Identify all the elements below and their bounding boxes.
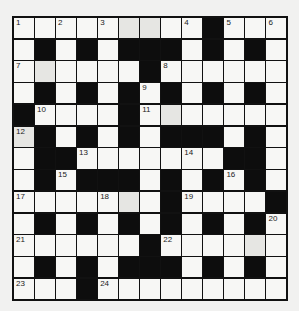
grid-cell[interactable]	[77, 61, 97, 81]
grid-cell[interactable]: 17	[14, 192, 34, 212]
grid-cell[interactable]	[266, 148, 286, 168]
grid-cell[interactable]	[245, 18, 265, 38]
grid-cell[interactable]	[14, 148, 34, 168]
grid-cell[interactable]: 3	[98, 18, 118, 38]
grid-cell[interactable]	[56, 235, 76, 255]
grid-cell[interactable]	[203, 235, 223, 255]
grid-cell[interactable]	[266, 83, 286, 103]
grid-cell[interactable]	[203, 192, 223, 212]
grid-cell[interactable]	[119, 192, 139, 212]
grid-cell[interactable]	[266, 279, 286, 299]
grid-cell[interactable]	[182, 214, 202, 234]
grid-cell[interactable]: 14	[182, 148, 202, 168]
grid-cell[interactable]	[245, 192, 265, 212]
grid-cell[interactable]	[56, 279, 76, 299]
grid-cell[interactable]	[140, 192, 160, 212]
grid-cell[interactable]: 12	[14, 127, 34, 147]
grid-cell[interactable]: 13	[77, 148, 97, 168]
grid-cell[interactable]	[35, 18, 55, 38]
grid-cell[interactable]	[14, 170, 34, 190]
grid-cell[interactable]	[203, 61, 223, 81]
grid-cell[interactable]	[14, 257, 34, 277]
grid-cell[interactable]	[266, 127, 286, 147]
grid-cell[interactable]	[35, 279, 55, 299]
grid-cell[interactable]	[98, 257, 118, 277]
grid-cell[interactable]: 21	[14, 235, 34, 255]
grid-cell[interactable]	[266, 257, 286, 277]
grid-cell[interactable]	[77, 235, 97, 255]
grid-cell[interactable]	[224, 105, 244, 125]
grid-cell[interactable]	[119, 148, 139, 168]
grid-cell[interactable]	[14, 40, 34, 60]
grid-cell[interactable]	[140, 214, 160, 234]
grid-cell[interactable]	[35, 235, 55, 255]
grid-cell[interactable]	[224, 214, 244, 234]
grid-cell[interactable]	[161, 148, 181, 168]
grid-cell[interactable]	[203, 279, 223, 299]
grid-cell[interactable]	[98, 105, 118, 125]
grid-cell[interactable]: 20	[266, 214, 286, 234]
grid-cell[interactable]	[119, 18, 139, 38]
grid-cell[interactable]	[56, 192, 76, 212]
grid-cell[interactable]	[140, 279, 160, 299]
grid-cell[interactable]	[98, 83, 118, 103]
grid-cell[interactable]	[203, 148, 223, 168]
grid-cell[interactable]	[56, 127, 76, 147]
grid-cell[interactable]: 18	[98, 192, 118, 212]
grid-cell[interactable]: 19	[182, 192, 202, 212]
grid-cell[interactable]	[224, 192, 244, 212]
grid-cell[interactable]	[35, 61, 55, 81]
grid-cell[interactable]	[119, 235, 139, 255]
grid-cell[interactable]: 9	[140, 83, 160, 103]
grid-cell[interactable]	[140, 127, 160, 147]
grid-cell[interactable]	[98, 40, 118, 60]
grid-cell[interactable]: 22	[161, 235, 181, 255]
grid-cell[interactable]	[119, 279, 139, 299]
grid-cell[interactable]	[224, 235, 244, 255]
grid-cell[interactable]	[224, 279, 244, 299]
grid-cell[interactable]	[119, 61, 139, 81]
grid-cell[interactable]	[182, 40, 202, 60]
grid-cell[interactable]	[77, 192, 97, 212]
grid-cell[interactable]: 24	[98, 279, 118, 299]
grid-cell[interactable]	[98, 235, 118, 255]
grid-cell[interactable]	[266, 61, 286, 81]
grid-cell[interactable]: 2	[56, 18, 76, 38]
grid-cell[interactable]	[182, 257, 202, 277]
grid-cell[interactable]	[182, 105, 202, 125]
grid-cell[interactable]	[161, 105, 181, 125]
grid-cell[interactable]: 10	[35, 105, 55, 125]
grid-cell[interactable]	[56, 257, 76, 277]
grid-cell[interactable]	[98, 127, 118, 147]
grid-cell[interactable]	[224, 83, 244, 103]
grid-cell[interactable]: 8	[161, 61, 181, 81]
grid-cell[interactable]	[98, 214, 118, 234]
grid-cell[interactable]	[56, 214, 76, 234]
grid-cell[interactable]	[224, 127, 244, 147]
grid-cell[interactable]	[182, 279, 202, 299]
grid-cell[interactable]	[35, 192, 55, 212]
grid-cell[interactable]	[245, 105, 265, 125]
grid-cell[interactable]	[14, 83, 34, 103]
grid-cell[interactable]	[140, 170, 160, 190]
grid-cell[interactable]	[266, 105, 286, 125]
grid-cell[interactable]	[161, 18, 181, 38]
grid-cell[interactable]: 4	[182, 18, 202, 38]
grid-cell[interactable]	[266, 170, 286, 190]
grid-cell[interactable]	[266, 235, 286, 255]
grid-cell[interactable]: 7	[14, 61, 34, 81]
grid-cell[interactable]	[56, 40, 76, 60]
grid-cell[interactable]: 1	[14, 18, 34, 38]
grid-cell[interactable]: 23	[14, 279, 34, 299]
grid-cell[interactable]: 15	[56, 170, 76, 190]
grid-cell[interactable]	[245, 235, 265, 255]
grid-cell[interactable]	[161, 279, 181, 299]
grid-cell[interactable]: 16	[224, 170, 244, 190]
grid-cell[interactable]: 6	[266, 18, 286, 38]
grid-cell[interactable]	[266, 40, 286, 60]
grid-cell[interactable]	[77, 105, 97, 125]
grid-cell[interactable]: 11	[140, 105, 160, 125]
grid-cell[interactable]	[14, 214, 34, 234]
grid-cell[interactable]	[182, 83, 202, 103]
grid-cell[interactable]	[56, 105, 76, 125]
